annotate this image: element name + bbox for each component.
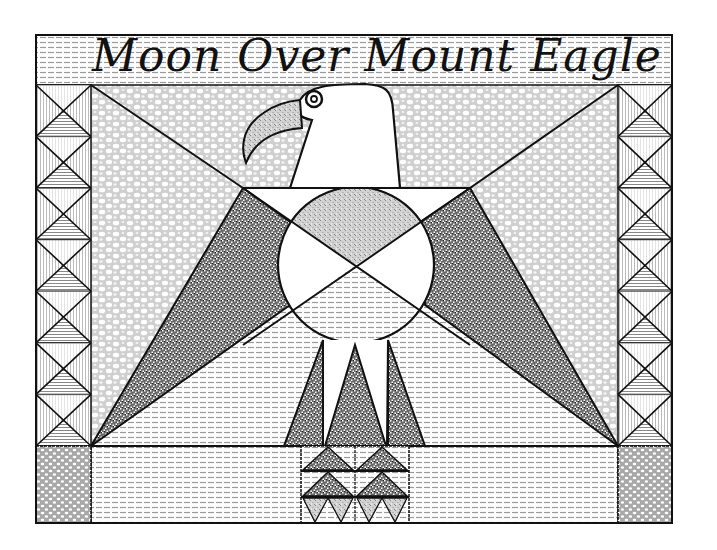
- corner-block-right: [618, 446, 672, 523]
- base-sawtooth: [301, 446, 409, 523]
- quilt-title: Moon Over Mount Eagle: [92, 30, 692, 82]
- corner-block-left: [36, 446, 91, 523]
- quilt-illustration: [0, 0, 717, 550]
